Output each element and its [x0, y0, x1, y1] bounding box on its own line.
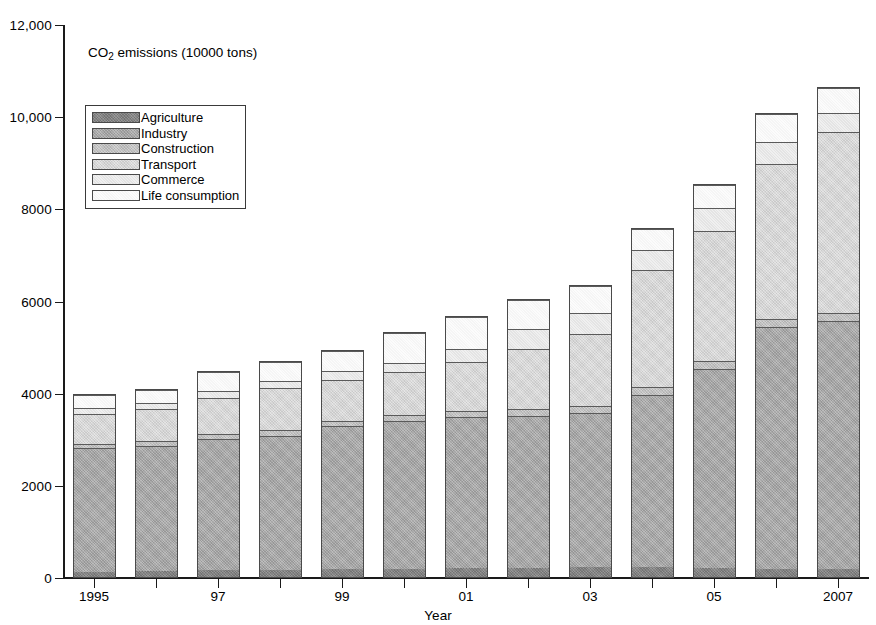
x-axis-tick	[94, 579, 95, 588]
legend-item-commerce: Commerce	[92, 172, 239, 188]
bar-segment-agriculture	[74, 572, 115, 577]
legend-item-label: Commerce	[141, 172, 205, 188]
x-axis-tick	[714, 579, 715, 588]
y-axis-tick-label: 12,000	[4, 18, 52, 33]
bar-segment-life-consumption	[322, 351, 363, 372]
legend-item-industry: Industry	[92, 126, 239, 142]
y-axis-tick-labels: 0200040006000800010,00012,000	[0, 0, 52, 625]
bar-segment-transport	[632, 270, 673, 388]
bar-segment-construction	[632, 387, 673, 394]
bar-segment-construction	[694, 361, 735, 369]
chart-title-pre: CO	[88, 45, 108, 60]
bar-segment-industry	[74, 448, 115, 571]
bar-segment-construction	[508, 409, 549, 416]
x-axis-tick	[404, 579, 405, 588]
legend-swatch-icon	[92, 174, 140, 185]
bar-segment-industry	[570, 413, 611, 568]
bar-segment-industry	[384, 421, 425, 569]
x-axis-tick-label: 2007	[823, 589, 853, 604]
bar-2007	[817, 87, 860, 578]
bar-2006	[755, 113, 798, 578]
bar-segment-commerce	[570, 313, 611, 334]
bar-segment-commerce	[632, 250, 673, 270]
bar-segment-industry	[322, 426, 363, 569]
bar-segment-life-consumption	[756, 114, 797, 142]
legend-swatch-icon	[92, 159, 140, 170]
legend-item-transport: Transport	[92, 157, 239, 173]
bar-segment-commerce	[818, 113, 859, 133]
legend-swatch-icon	[92, 128, 140, 139]
x-axis-tick	[528, 579, 529, 588]
bar-segment-commerce	[508, 329, 549, 348]
legend-item-label: Construction	[141, 141, 214, 157]
bar-segment-industry	[632, 395, 673, 567]
x-axis-tick	[590, 579, 591, 588]
x-axis-tick-label: 1995	[79, 589, 109, 604]
bar-segment-agriculture	[508, 568, 549, 577]
bar-segment-industry	[136, 446, 177, 571]
chart-title-post: emissions (10000 tons)	[114, 45, 257, 60]
legend-swatch-icon	[92, 143, 140, 154]
legend-swatch-icon	[92, 190, 140, 201]
bar-segment-transport	[384, 372, 425, 415]
bar-segment-agriculture	[756, 569, 797, 577]
legend-item-construction: Construction	[92, 141, 239, 157]
legend-item-label: Agriculture	[141, 110, 203, 126]
bar-segment-life-consumption	[136, 390, 177, 403]
bar-segment-life-consumption	[570, 286, 611, 313]
bar-segment-life-consumption	[446, 317, 487, 349]
bar-segment-transport	[694, 231, 735, 361]
bar-segment-transport	[508, 349, 549, 409]
x-axis-tick-label: 05	[706, 589, 721, 604]
bar-1999	[321, 350, 364, 578]
y-axis-tick-label: 6000	[4, 294, 52, 309]
legend-swatch-icon	[92, 112, 140, 123]
y-axis-tick-label: 8000	[4, 202, 52, 217]
x-axis-tick	[838, 579, 839, 588]
bar-segment-agriculture	[198, 570, 239, 577]
bar-segment-agriculture	[570, 567, 611, 577]
bar-segment-industry	[446, 417, 487, 568]
bar-segment-commerce	[198, 391, 239, 398]
chart-figure: 0200040006000800010,00012,000 1995979901…	[0, 0, 876, 625]
x-axis-tick-label: 99	[334, 589, 349, 604]
bar-segment-industry	[756, 327, 797, 568]
x-axis-tick	[652, 579, 653, 588]
x-axis-title: Year	[0, 608, 876, 623]
bar-segment-transport	[570, 334, 611, 406]
y-axis-tick-label: 0	[4, 571, 52, 586]
bar-segment-transport	[818, 132, 859, 312]
bar-segment-industry	[198, 439, 239, 570]
bar-segment-industry	[818, 321, 859, 569]
bar-2002	[507, 299, 550, 578]
bar-2005	[693, 184, 736, 578]
bar-segment-agriculture	[322, 569, 363, 577]
bar-segment-transport	[136, 409, 177, 441]
bar-segment-commerce	[384, 363, 425, 373]
bar-1995	[73, 394, 116, 578]
bar-segment-transport	[322, 380, 363, 421]
x-axis-tick-label: 03	[582, 589, 597, 604]
bar-2001	[445, 316, 488, 578]
bar-segment-commerce	[756, 142, 797, 164]
bar-2003	[569, 285, 612, 578]
y-axis-tick-label: 4000	[4, 386, 52, 401]
x-axis-tick	[156, 579, 157, 588]
bar-segment-commerce	[694, 208, 735, 231]
bar-segment-agriculture	[632, 567, 673, 577]
bar-segment-commerce	[322, 371, 363, 379]
bar-segment-agriculture	[818, 569, 859, 577]
bar-segment-transport	[260, 388, 301, 430]
bar-segment-transport	[198, 398, 239, 434]
bar-segment-construction	[756, 319, 797, 327]
bar-segment-construction	[818, 313, 859, 322]
bar-segment-life-consumption	[74, 395, 115, 409]
bar-segment-life-consumption	[384, 333, 425, 362]
bar-1998	[259, 361, 302, 578]
y-axis-tick-label: 10,000	[4, 110, 52, 125]
bar-segment-agriculture	[260, 570, 301, 577]
legend-item-label: Life consumption	[141, 188, 239, 204]
bar-segment-transport	[446, 362, 487, 411]
x-axis-tick	[218, 579, 219, 588]
bar-segment-transport	[74, 414, 115, 444]
